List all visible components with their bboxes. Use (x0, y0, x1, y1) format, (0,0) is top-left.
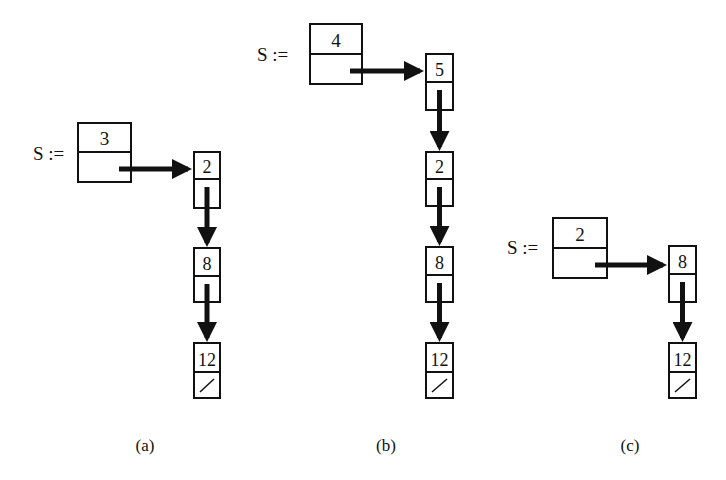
panel-c: S :=2812(c) (507, 218, 696, 455)
node-value: 5 (435, 60, 444, 80)
list-node: 2 (194, 152, 220, 243)
stack-label: S := (257, 44, 288, 65)
panel-a: S :=32812(a) (33, 123, 220, 455)
stack-count: 3 (100, 128, 110, 149)
panel-b: S :=452812(b) (257, 24, 453, 455)
list-node: 5 (426, 54, 453, 147)
list-node: 2 (426, 152, 453, 242)
panel-caption: (c) (621, 436, 640, 455)
node-value: 8 (678, 252, 687, 272)
stack-count: 4 (331, 30, 341, 51)
linked-list-stack-diagram: S :=32812(a)S :=452812(b)S :=2812(c) (0, 0, 726, 480)
stack-box: 2 (553, 218, 607, 278)
node-value: 2 (435, 157, 444, 177)
list-node: 8 (669, 246, 696, 338)
node-value: 12 (674, 350, 692, 370)
node-value: 12 (198, 350, 216, 370)
panel-caption: (a) (136, 436, 155, 455)
stack-box: 3 (78, 123, 131, 182)
list-node: 12 (669, 343, 696, 398)
node-value: 8 (203, 254, 212, 274)
node-value: 8 (435, 253, 444, 273)
stack-box: 4 (310, 24, 362, 84)
stack-label: S := (507, 237, 538, 258)
list-node: 8 (194, 248, 220, 338)
node-value: 12 (431, 350, 449, 370)
node-value: 2 (203, 157, 212, 177)
list-node: 12 (194, 343, 220, 398)
panel-caption: (b) (376, 436, 396, 455)
list-node: 8 (426, 247, 453, 338)
stack-label: S := (33, 143, 64, 164)
stack-count: 2 (575, 224, 585, 245)
list-node: 12 (426, 343, 453, 398)
